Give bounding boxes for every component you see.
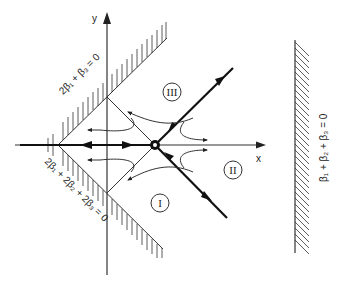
lower-boundary-label: 2β₁ + 2β₂ + 2β₃ = 0: [43, 156, 111, 224]
region-I-label: I: [158, 197, 162, 209]
region-III-label: III: [167, 86, 178, 98]
region-III-marker: III: [163, 83, 181, 101]
y-axis: [103, 12, 111, 275]
saddle-point: [150, 140, 160, 150]
y-axis-label: y: [92, 13, 97, 24]
upper-boundary-label: 2β₁ + β₃ = 0: [57, 51, 102, 96]
lower-boundary-line: [48, 145, 163, 258]
region-I-marker: I: [151, 194, 169, 212]
x-axis-label: x: [256, 153, 261, 164]
phase-diagram: y x: [0, 0, 341, 290]
region-II-marker: II: [224, 161, 242, 179]
trajectory-arrows: [80, 76, 225, 201]
right-boundary-label: β₁ + β₂ + β₃ = 0: [318, 113, 329, 182]
right-boundary-line: [295, 40, 309, 254]
region-II-label: II: [229, 164, 237, 176]
